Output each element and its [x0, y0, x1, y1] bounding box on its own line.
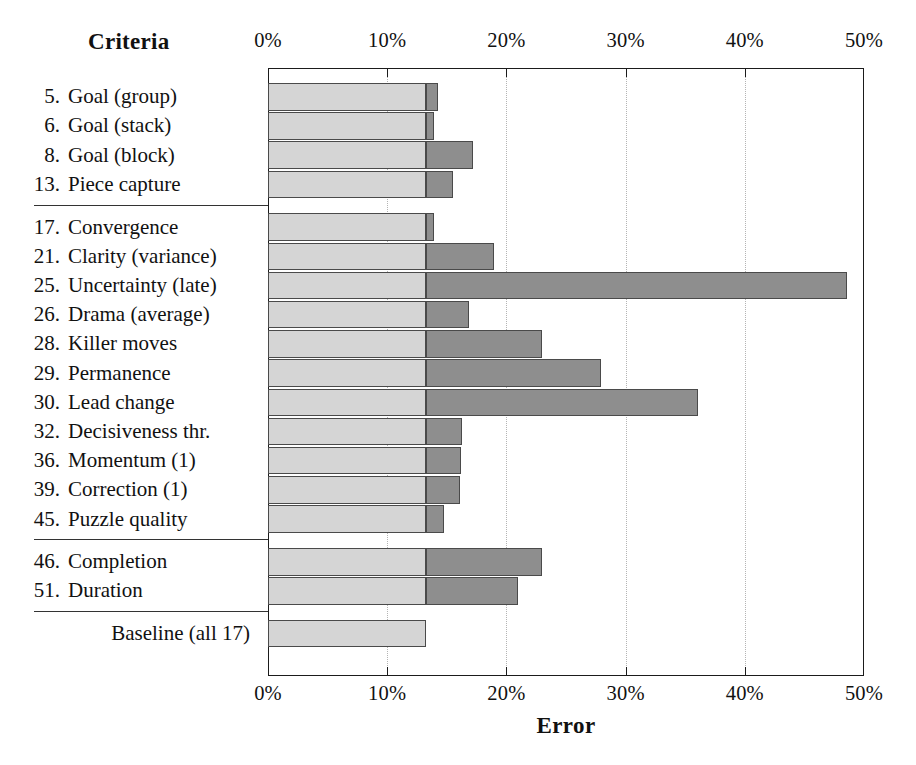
- row-label: 45.Puzzle quality: [0, 505, 258, 533]
- x-axis-title: Error: [536, 713, 595, 739]
- row-label: 26.Drama (average): [0, 301, 258, 329]
- row-number: 17.: [0, 217, 60, 238]
- row-criterion-name: Lead change: [68, 392, 175, 413]
- row-number: 13.: [0, 174, 60, 195]
- row-criterion-name: Piece capture: [68, 174, 181, 195]
- bar-base-segment: [268, 620, 426, 648]
- bar-base-segment: [268, 330, 426, 358]
- tick-top-30: [626, 68, 627, 77]
- row-label: 36.Momentum (1): [0, 447, 258, 475]
- row-label: 29.Permanence: [0, 359, 258, 387]
- row-label: 39.Correction (1): [0, 476, 258, 504]
- row-criterion-name: Clarity (variance): [68, 246, 217, 267]
- row-label: 21.Clarity (variance): [0, 243, 258, 271]
- row-number: 51.: [0, 580, 60, 601]
- bar-extension-segment: [426, 83, 439, 111]
- row-number: 28.: [0, 333, 60, 354]
- row-number: 45.: [0, 509, 60, 530]
- chart-row: 6.Goal (stack): [0, 112, 916, 140]
- row-criterion-name: Uncertainty (late): [68, 275, 217, 296]
- bar-base-segment: [268, 272, 426, 300]
- bar-base-segment: [268, 389, 426, 417]
- row-number: 39.: [0, 479, 60, 500]
- chart-row: 8.Goal (block): [0, 141, 916, 169]
- chart-row: 39.Correction (1): [0, 476, 916, 504]
- bar-base-segment: [268, 213, 426, 241]
- chart-row: 29.Permanence: [0, 359, 916, 387]
- row-criterion-name: Puzzle quality: [68, 509, 188, 530]
- bar-extension-segment: [426, 171, 453, 199]
- top-tick-label-30: 30%: [607, 29, 645, 52]
- row-number: 6.: [0, 115, 60, 136]
- bar-base-segment: [268, 243, 426, 271]
- bar-extension-segment: [426, 447, 461, 475]
- tick-bottom-40: [745, 667, 746, 676]
- top-tick-label-10: 10%: [368, 29, 406, 52]
- bar-base-segment: [268, 548, 426, 576]
- bottom-tick-label-0: 0%: [254, 682, 282, 705]
- bar-extension-segment: [426, 330, 542, 358]
- chart-row: 25.Uncertainty (late): [0, 272, 916, 300]
- bar-base-segment: [268, 476, 426, 504]
- row-label: 6.Goal (stack): [0, 112, 258, 140]
- tick-top-40: [745, 68, 746, 77]
- row-label: 32.Decisiveness thr.: [0, 418, 258, 446]
- bar-base-segment: [268, 112, 426, 140]
- bar-base-segment: [268, 447, 426, 475]
- top-tick-label-40: 40%: [726, 29, 764, 52]
- bar-base-segment: [268, 577, 426, 605]
- bar-base-segment: [268, 301, 426, 329]
- row-number: 46.: [0, 551, 60, 572]
- bar-extension-segment: [426, 359, 601, 387]
- chart-row: 17.Convergence: [0, 213, 916, 241]
- group-separator: [34, 539, 268, 540]
- group-separator: [34, 611, 268, 612]
- bar-extension-segment: [426, 548, 542, 576]
- chart-row: 28.Killer moves: [0, 330, 916, 358]
- row-criterion-name: Convergence: [68, 217, 178, 238]
- row-criterion-name: Baseline (all 17): [111, 623, 250, 644]
- top-tick-label-20: 20%: [487, 29, 525, 52]
- bar-extension-segment: [426, 577, 518, 605]
- row-label: 30.Lead change: [0, 389, 258, 417]
- row-number: 36.: [0, 450, 60, 471]
- error-bar-chart: Criteria 0%10%20%30%40%50% 0%10%20%30%40…: [0, 0, 916, 765]
- bar-extension-segment: [426, 301, 470, 329]
- row-criterion-name: Duration: [68, 580, 143, 601]
- row-criterion-name: Correction (1): [68, 479, 188, 500]
- chart-row: 13.Piece capture: [0, 171, 916, 199]
- chart-row: Baseline (all 17): [0, 620, 916, 648]
- chart-row: 36.Momentum (1): [0, 447, 916, 475]
- row-label: 17.Convergence: [0, 213, 258, 241]
- row-criterion-name: Decisiveness thr.: [68, 421, 210, 442]
- bar-base-segment: [268, 505, 426, 533]
- chart-row: 32.Decisiveness thr.: [0, 418, 916, 446]
- tick-top-10: [387, 68, 388, 77]
- row-label: 46.Completion: [0, 548, 258, 576]
- top-tick-label-0: 0%: [254, 29, 282, 52]
- bar-extension-segment: [426, 213, 434, 241]
- bar-extension-segment: [426, 389, 698, 417]
- row-label: Baseline (all 17): [0, 620, 258, 648]
- bar-extension-segment: [426, 141, 473, 169]
- bottom-tick-label-40: 40%: [726, 682, 764, 705]
- chart-row: 46.Completion: [0, 548, 916, 576]
- row-label: 5.Goal (group): [0, 83, 258, 111]
- group-separator: [34, 205, 268, 206]
- row-label: 25.Uncertainty (late): [0, 272, 258, 300]
- row-number: 25.: [0, 275, 60, 296]
- row-number: 8.: [0, 145, 60, 166]
- bar-extension-segment: [426, 272, 847, 300]
- criteria-column-header: Criteria: [88, 29, 170, 55]
- row-label: 51.Duration: [0, 577, 258, 605]
- row-label: 13.Piece capture: [0, 171, 258, 199]
- bottom-tick-label-20: 20%: [487, 682, 525, 705]
- bar-base-segment: [268, 83, 426, 111]
- bar-extension-segment: [426, 476, 460, 504]
- bottom-tick-label-10: 10%: [368, 682, 406, 705]
- tick-bottom-30: [626, 667, 627, 676]
- tick-top-20: [506, 68, 507, 77]
- chart-row: 30.Lead change: [0, 389, 916, 417]
- bar-extension-segment: [426, 243, 495, 271]
- row-number: 29.: [0, 363, 60, 384]
